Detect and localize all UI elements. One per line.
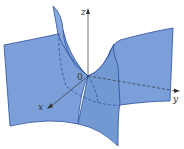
surface-left-panel	[4, 30, 88, 126]
origin-label: 0	[77, 72, 83, 82]
z-axis-arrow-icon	[86, 8, 90, 14]
x-axis-label: x	[38, 102, 43, 112]
z-axis-label: z	[80, 7, 86, 17]
saddle-surface-diagram: z y x 0	[0, 0, 184, 149]
surface-front-panel	[78, 44, 120, 146]
y-axis-label: y	[172, 94, 179, 104]
y-axis-arrow-icon	[174, 89, 180, 94]
saddle-surface-figure: z y x 0	[0, 0, 184, 149]
